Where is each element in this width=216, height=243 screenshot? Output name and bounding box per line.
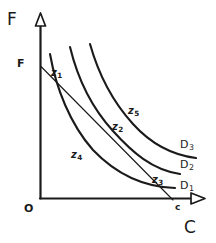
point-label-z5-text: z	[128, 105, 134, 116]
point-label-z2-text: z	[112, 121, 118, 132]
point-label-z3: z3	[152, 175, 163, 186]
curve-label-d2: D2	[180, 159, 194, 172]
curve-label-d1: D1	[180, 180, 194, 193]
point-label-z1: z1	[51, 68, 62, 79]
curve-label-d3: D3	[180, 139, 194, 152]
arrow-right-icon	[191, 193, 205, 204]
point-label-z2: z2	[112, 122, 123, 133]
curve-label-d1-subscript: 1	[188, 184, 193, 193]
food-axis	[36, 13, 46, 199]
curve-label-d3-subscript: 3	[188, 143, 193, 152]
arrow-up-icon	[36, 13, 46, 26]
vertical-intercept-label: F	[17, 58, 25, 69]
curve-label-d2-subscript: 2	[188, 163, 193, 172]
point-label-z5-subscript: 5	[134, 109, 139, 118]
point-label-z4-text: z	[71, 149, 77, 160]
horizontal-intercept-label: c	[175, 203, 180, 212]
clothing-axis-title: C	[184, 219, 196, 236]
point-label-z5: z5	[128, 106, 139, 117]
point-label-z4-subscript: 4	[77, 153, 82, 162]
point-label-z3-text: z	[152, 174, 158, 185]
food-axis-title: F	[7, 11, 17, 28]
origin-label: O	[24, 203, 33, 214]
point-label-z4: z4	[71, 150, 82, 161]
indifference-curve-d2	[70, 47, 180, 174]
indifference-curve-figure: F C O F c D3 D2 D1 z1 z2 z3 z4 z5	[0, 0, 216, 243]
point-label-z1-text: z	[51, 67, 57, 78]
point-label-z2-subscript: 2	[118, 125, 123, 134]
point-label-z3-subscript: 3	[158, 178, 163, 187]
point-label-z1-subscript: 1	[57, 71, 62, 80]
